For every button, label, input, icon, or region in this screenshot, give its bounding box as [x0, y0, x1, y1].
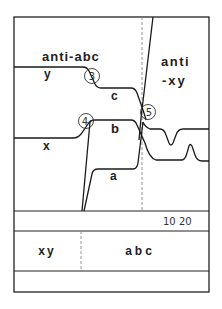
steep-line-bottom: [82, 122, 90, 211]
curve-label-b: b: [111, 121, 119, 136]
region-label-anti-xy-2: -xy: [162, 73, 187, 88]
steep-line-top: [139, 17, 153, 140]
axis-ticks-label: 10 20: [163, 216, 192, 227]
curve-label-c: c: [111, 89, 118, 103]
marker-3: 3: [85, 69, 100, 84]
marker-3-label: 3: [89, 71, 95, 82]
curve-label-y: y: [44, 67, 51, 81]
curve-label-x: x: [43, 139, 50, 153]
marker-5: 5: [141, 105, 156, 120]
curve-y-c: [14, 67, 146, 120]
curve-a: [84, 122, 209, 211]
curve-label-a: a: [110, 169, 117, 183]
region-label-anti-xy-1: anti: [161, 54, 190, 69]
band-label-xy: xy: [38, 244, 55, 258]
diagram-canvas: 3 4 5 anti-abc anti -xy y c x b a 10 20 …: [0, 0, 222, 309]
region-label-anti-abc: anti-abc: [42, 49, 100, 64]
marker-5-label: 5: [146, 107, 152, 118]
band-label-abc: abc: [125, 244, 155, 258]
marker-4-label: 4: [82, 116, 88, 127]
